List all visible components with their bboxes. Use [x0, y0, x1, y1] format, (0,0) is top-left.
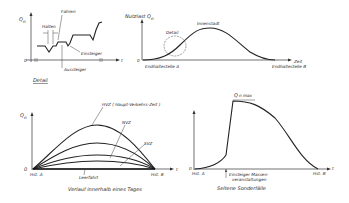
special-load-curve — [195, 101, 318, 169]
route-origin: 0 — [137, 58, 140, 63]
route-load-curve — [143, 28, 275, 60]
daily-y-label: Qn — [20, 112, 27, 120]
route-end-label: Endhaltestelle B — [272, 64, 306, 69]
label-hvz: HVZ ( Haupt-Verkehrs-Zeit ) — [102, 102, 161, 107]
route-detail-label: Detail — [166, 30, 179, 35]
route-peak-label: Innenstadt — [197, 21, 220, 26]
arrow-right-icon — [327, 168, 331, 171]
daily-origin: 0 — [24, 166, 27, 172]
arrow-up-icon — [30, 12, 33, 16]
route-start-label: Endhaltestelle A — [145, 64, 179, 69]
panel-route: Nutzlast Qn 0 Zeit Innenstadt Detail End… — [125, 13, 306, 69]
detail-origin: 0 — [24, 58, 27, 63]
label-einsteiger: Einsteiger — [81, 51, 102, 56]
daily-x-label: t — [176, 167, 178, 172]
label-halten: Halten — [42, 24, 56, 29]
detail-circle-marker — [164, 36, 186, 56]
label-fahren: Fahren — [61, 9, 76, 14]
panel-daily: Qn 0 t HVZ ( Haupt-Verkehrs-Zeit ) NVZ S… — [20, 102, 178, 193]
diagram-canvas: Qn 0 t Halten Fahren Einsteiger Aussteig… — [0, 0, 349, 203]
special-x-label: t — [332, 166, 334, 171]
arrow-up-icon — [225, 169, 227, 172]
arrow-right-icon — [170, 168, 174, 171]
special-end-label: Hst. B — [313, 171, 326, 176]
panel-detail: Qn 0 t Halten Fahren Einsteiger Aussteig… — [19, 9, 123, 83]
arrow-up-icon — [141, 19, 144, 23]
detail-caption: Detail — [33, 77, 48, 83]
detail-y-label: Qn — [19, 16, 26, 24]
daily-end-label: Hst. B — [151, 172, 164, 177]
special-start-label: Hst. A — [192, 171, 205, 176]
arrow-up-icon — [31, 112, 34, 116]
label-svz: SVZ — [144, 141, 153, 146]
panel-special: Qn max 0 t Hst. A Hst. B Einsteiger Mass… — [189, 92, 334, 191]
arrow-right-icon — [116, 59, 120, 62]
label-nvz: NVZ — [122, 120, 131, 125]
special-caption: Seltene Sonderfälle — [217, 185, 266, 191]
daily-caption: Verlauf innerhalb eines Tages — [68, 186, 142, 193]
detail-x-label: t — [121, 58, 123, 63]
label-leerfahrt: Leerfahrt — [79, 175, 99, 180]
route-y-label: Nutzlast Qn — [125, 13, 154, 21]
label-aussteiger: Aussteiger — [63, 67, 86, 72]
arrow-right-icon — [288, 59, 292, 62]
special-event-line2: veranstaltungen — [232, 177, 267, 182]
curve-svz — [33, 155, 155, 169]
arrow-up-icon — [193, 110, 196, 114]
special-peak-label: Qn max — [234, 92, 253, 98]
daily-start-label: Hst. A — [30, 172, 43, 177]
